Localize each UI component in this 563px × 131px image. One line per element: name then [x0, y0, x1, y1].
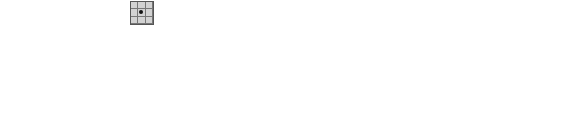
kernel-cell	[138, 2, 145, 9]
kernel-cell	[146, 17, 153, 24]
kernel-cell	[138, 17, 145, 24]
kernel-cell	[131, 9, 138, 16]
kernel-center-cell	[138, 9, 145, 16]
kernel-cell	[146, 9, 153, 16]
kernel-cell	[146, 2, 153, 9]
kernel-cell	[131, 2, 138, 9]
kernel-b	[130, 1, 154, 25]
origin-dot-icon	[139, 10, 143, 14]
kernel-cell	[131, 17, 138, 24]
